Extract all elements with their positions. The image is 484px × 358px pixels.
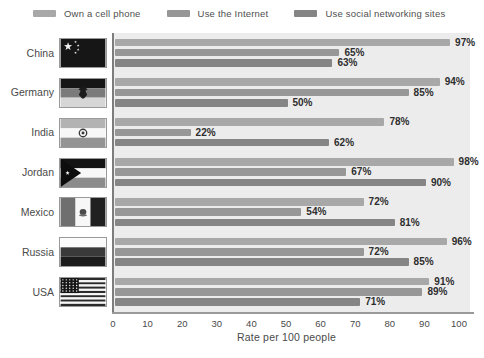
bar-jordan-use-social-networking-sites	[115, 179, 426, 187]
category-label-jordan: Jordan	[0, 166, 54, 178]
bar-germany-own-a-cell-phone	[115, 78, 440, 86]
bar-germany-use-the-internet	[115, 89, 409, 97]
flag-india-icon	[59, 118, 107, 148]
bar-china-own-a-cell-phone	[115, 39, 451, 47]
bar-mexico-use-the-internet	[115, 208, 302, 216]
y-axis-line	[112, 33, 114, 313]
x-tick-label-70: 70	[340, 318, 370, 329]
value-label-mexico-own-a-cell-phone: 72%	[369, 196, 389, 207]
x-tick-label-100: 100	[444, 318, 474, 329]
legend-label: Use the Internet	[198, 8, 269, 19]
value-label-usa-use-the-internet: 89%	[427, 286, 447, 297]
x-tick-label-20: 20	[167, 318, 197, 329]
value-label-usa-use-social-networking-sites: 71%	[365, 296, 385, 307]
bar-mexico-use-social-networking-sites	[115, 219, 395, 227]
bar-mexico-own-a-cell-phone	[115, 198, 364, 206]
legend-swatch-social-icon	[294, 10, 317, 17]
legend-item-social: Use social networking sites	[294, 8, 445, 19]
x-tick-label-50: 50	[271, 318, 301, 329]
category-label-india: India	[0, 126, 54, 138]
x-tick-label-80: 80	[375, 318, 405, 329]
legend-item-internet: Use the Internet	[167, 8, 269, 19]
value-label-germany-own-a-cell-phone: 94%	[445, 76, 465, 87]
category-label-germany: Germany	[0, 86, 54, 98]
bar-chart-figure: Own a cell phone Use the Internet Use so…	[0, 0, 484, 358]
x-axis-title: Rate per 100 people	[113, 331, 460, 343]
bar-russia-use-the-internet	[115, 248, 364, 256]
x-tick-label-60: 60	[306, 318, 336, 329]
category-label-china: China	[0, 47, 54, 59]
x-tick-label-40: 40	[236, 318, 266, 329]
flag-germany-icon	[59, 78, 107, 108]
value-label-jordan-use-social-networking-sites: 90%	[431, 177, 451, 188]
bar-china-use-the-internet	[115, 49, 340, 57]
value-label-india-use-social-networking-sites: 62%	[334, 137, 354, 148]
legend: Own a cell phone Use the Internet Use so…	[33, 8, 445, 19]
bar-india-use-the-internet	[115, 129, 191, 137]
flag-russia-icon	[59, 237, 107, 267]
legend-swatch-internet-icon	[167, 10, 190, 17]
bar-russia-own-a-cell-phone	[115, 238, 447, 246]
bar-usa-own-a-cell-phone	[115, 278, 430, 286]
bar-india-own-a-cell-phone	[115, 118, 385, 126]
bar-usa-use-the-internet	[115, 288, 423, 296]
x-tick-label-0: 0	[98, 318, 128, 329]
flag-jordan-icon	[59, 158, 107, 188]
legend-label: Use social networking sites	[325, 8, 445, 19]
value-label-mexico-use-the-internet: 54%	[306, 206, 326, 217]
legend-item-cell-phone: Own a cell phone	[33, 8, 141, 19]
value-label-germany-use-the-internet: 85%	[414, 87, 434, 98]
bar-jordan-use-the-internet	[115, 168, 347, 176]
x-tick-label-30: 30	[202, 318, 232, 329]
value-label-china-use-social-networking-sites: 63%	[337, 57, 357, 68]
legend-label: Own a cell phone	[64, 8, 141, 19]
x-tick-label-90: 90	[409, 318, 439, 329]
bar-russia-use-social-networking-sites	[115, 258, 409, 266]
value-label-jordan-own-a-cell-phone: 98%	[459, 156, 479, 167]
category-label-mexico: Mexico	[0, 206, 54, 218]
bar-usa-use-social-networking-sites	[115, 298, 361, 306]
bar-germany-use-social-networking-sites	[115, 99, 288, 107]
value-label-germany-use-social-networking-sites: 50%	[293, 97, 313, 108]
bar-india-use-social-networking-sites	[115, 139, 330, 147]
x-tick-label-10: 10	[133, 318, 163, 329]
value-label-china-own-a-cell-phone: 97%	[455, 37, 475, 48]
value-label-russia-use-social-networking-sites: 85%	[414, 256, 434, 267]
bar-china-use-social-networking-sites	[115, 59, 333, 67]
value-label-india-use-the-internet: 22%	[196, 127, 216, 138]
value-label-india-own-a-cell-phone: 78%	[389, 116, 409, 127]
flag-mexico-icon	[59, 197, 107, 227]
value-label-russia-own-a-cell-phone: 96%	[452, 236, 472, 247]
flag-china-icon	[59, 38, 107, 68]
legend-swatch-cell-phone-icon	[33, 10, 56, 17]
value-label-mexico-use-social-networking-sites: 81%	[400, 217, 420, 228]
category-label-russia: Russia	[0, 246, 54, 258]
bar-jordan-own-a-cell-phone	[115, 158, 454, 166]
category-label-usa: USA	[0, 286, 54, 298]
value-label-russia-use-the-internet: 72%	[369, 246, 389, 257]
value-label-jordan-use-the-internet: 67%	[351, 166, 371, 177]
flag-usa-icon	[59, 277, 107, 307]
x-axis-line	[112, 312, 474, 314]
